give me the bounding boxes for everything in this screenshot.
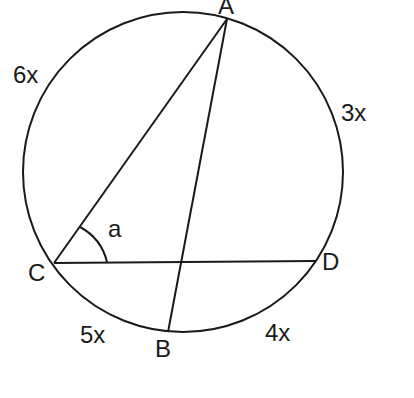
point-label-a: A xyxy=(218,0,234,19)
angle-arc xyxy=(80,227,107,262)
chord-ab xyxy=(168,19,227,332)
chord-ac xyxy=(54,19,227,263)
chord-cd xyxy=(54,261,315,263)
angle-label-a: a xyxy=(108,215,122,242)
arc-label-6x: 6x xyxy=(13,61,38,88)
arc-label-3x: 3x xyxy=(341,99,366,126)
circle-diagram: A C D B a 6x 3x 5x 4x xyxy=(0,0,414,398)
circle xyxy=(23,12,343,332)
arc-label-4x: 4x xyxy=(265,319,290,346)
point-label-b: B xyxy=(155,335,171,362)
arc-label-5x: 5x xyxy=(80,321,105,348)
point-label-d: D xyxy=(322,248,339,275)
point-label-c: C xyxy=(28,259,45,286)
